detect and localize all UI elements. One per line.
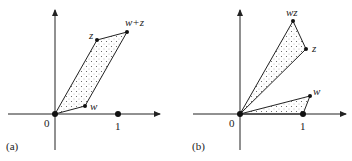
origin-point (237, 111, 243, 117)
point-z (95, 38, 99, 42)
origin-point (52, 111, 58, 117)
point-w-plus-z (125, 30, 129, 34)
label-z: z (88, 29, 94, 41)
label-w: w (90, 100, 98, 112)
point-z (304, 47, 308, 51)
label-w-plus-z: w+z (125, 16, 145, 28)
caption-a: (a) (6, 140, 19, 153)
complex-multiplication-diagram: z w+z w 0 1 (a) wz z w 0 1 (b) (0, 0, 352, 161)
point-one (300, 111, 306, 117)
label-origin: 0 (44, 117, 50, 129)
label-origin: 0 (229, 117, 235, 129)
caption-b: (b) (192, 140, 205, 153)
point-one (115, 111, 121, 117)
label-z: z (311, 42, 317, 54)
panel-a: z w+z w 0 1 (a) (6, 10, 160, 153)
point-wz (291, 19, 295, 23)
label-w: w (313, 85, 321, 97)
label-wz: wz (286, 6, 298, 18)
label-one: 1 (115, 120, 121, 132)
point-w (83, 104, 87, 108)
point-w (308, 94, 312, 98)
label-one: 1 (300, 120, 306, 132)
panel-b: wz z w 0 1 (b) (192, 6, 346, 153)
